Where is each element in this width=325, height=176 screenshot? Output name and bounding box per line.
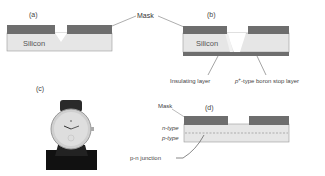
panel-a-label: (a): [29, 11, 38, 19]
panel-b-label: (b): [207, 11, 216, 19]
mask-left-d: [184, 116, 228, 125]
insulating-leader: [208, 56, 218, 75]
mask-left-b: [183, 26, 227, 34]
panel-a-cross-section: Silicon: [7, 25, 112, 51]
mask-label: Mask: [137, 12, 154, 19]
panel-d-cross-section: [184, 116, 289, 142]
mask-right-b: [248, 26, 289, 34]
watch-crown: [91, 127, 94, 131]
mask-label-d: Mask: [158, 103, 173, 109]
insulating-layer-label: Insulating layer: [170, 78, 210, 84]
boron-stop-leader: [257, 56, 266, 75]
p-type-label: p-type: [161, 135, 179, 141]
mask-leader-a: [112, 16, 136, 26]
mask-right-a: [67, 25, 112, 34]
wristwatch-photo: [46, 100, 97, 170]
mask-leader-b: [158, 16, 184, 27]
mask-left-a: [7, 25, 55, 34]
micromachining-diagram: (a) Silicon Mask (b) Silicon Insulating …: [0, 0, 325, 176]
silicon-label-a: Silicon: [23, 39, 45, 48]
panel-b-cross-section: Silicon: [183, 26, 289, 56]
panel-d-label: (d): [205, 104, 214, 112]
boron-stop-label: p+-type boron stop layer: [234, 77, 299, 85]
mask-leader-d: [172, 109, 186, 118]
pn-junction-label: p-n junction: [130, 155, 161, 161]
boron-stop-layer-b: [183, 52, 289, 56]
watch-logo: [70, 120, 72, 122]
mask-right-d: [249, 116, 289, 125]
n-type-label: n-type: [162, 125, 179, 131]
panel-c-label: (c): [36, 85, 44, 93]
silicon-label-b: Silicon: [196, 39, 218, 48]
